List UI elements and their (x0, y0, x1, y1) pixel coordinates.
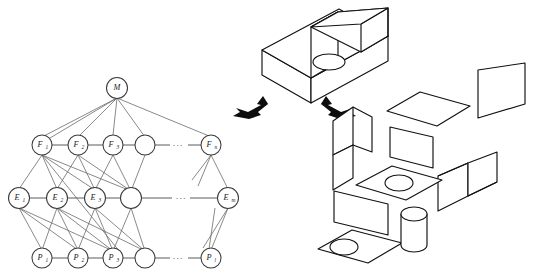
ellipsis-primitive-layer: ··· (173, 253, 184, 263)
face-lower-left-panel (334, 191, 388, 235)
node-fn[interactable]: F n (201, 135, 221, 155)
base-plate-hole-ellipse (385, 175, 413, 191)
node-label-em: E (222, 193, 228, 202)
exploded-face-view (318, 63, 525, 263)
node-label-f2: F (72, 140, 79, 149)
node-f2[interactable]: F 2 (68, 135, 88, 155)
node-label-p2: P (72, 253, 78, 262)
edges-root-to-feature (42, 98, 209, 138)
node-sub-f3: 3 (116, 144, 120, 150)
ellipsis-element-layer: ··· (176, 193, 187, 203)
node-sub-p2: 2 (82, 257, 85, 263)
node-p2[interactable]: P 2 (68, 248, 88, 268)
node-sub-e3: 3 (98, 197, 102, 203)
node-f3[interactable]: F 3 (103, 135, 123, 155)
node-label-m: M (113, 83, 122, 92)
node-sub-p1: 1 (46, 257, 49, 263)
node-root-m[interactable]: M (107, 78, 128, 99)
node-sub-p3: 3 (116, 257, 120, 263)
node-sub-e2: 2 (61, 197, 64, 203)
face-right-bent-front (438, 163, 468, 211)
face-top-deck (387, 92, 470, 126)
edges-element-to-primitive (19, 208, 228, 251)
face-front-panel (390, 127, 433, 168)
node-circle-p4[interactable] (135, 248, 155, 268)
node-e4-unlabeled[interactable] (121, 188, 142, 209)
face-left-bent-side (353, 107, 372, 152)
node-em[interactable]: E m (218, 188, 239, 209)
block-hole-ellipse (313, 54, 345, 70)
bottom-plate-hole-ellipse (330, 239, 358, 255)
ellipsis-feature-layer: ··· (173, 140, 184, 150)
isometric-l-block (262, 8, 388, 103)
cylinder-pin-top (401, 207, 427, 221)
node-label-fn: F (205, 140, 212, 149)
node-f1[interactable]: F 1 (32, 135, 52, 155)
node-label-f3: F (107, 140, 114, 149)
node-f4-unlabeled[interactable] (135, 135, 155, 155)
node-sub-fn: n (215, 144, 218, 150)
node-e1[interactable]: E 1 (9, 188, 30, 209)
node-p4-unlabeled[interactable] (135, 248, 155, 268)
node-label-e3: E (89, 193, 95, 202)
node-label-p1: P (36, 253, 42, 262)
face-top-right-plate (478, 63, 525, 118)
node-pl[interactable]: P l (201, 248, 221, 268)
node-sub-e1: 1 (23, 197, 26, 203)
node-label-p3: P (107, 253, 113, 262)
node-p1[interactable]: P 1 (32, 248, 52, 268)
node-label-e2: E (51, 193, 57, 202)
node-label-pl: P (205, 253, 211, 262)
node-sub-em: m (232, 197, 236, 203)
hierarchy-graph: ··· ··· ··· M F 1 F 2 F 3 (9, 78, 239, 269)
node-label-e1: E (13, 193, 19, 202)
explode-arrow-left (233, 96, 270, 119)
node-sub-f2: 2 (82, 144, 85, 150)
diagram-svg: ··· ··· ··· M F 1 F 2 F 3 (0, 0, 533, 275)
node-p3[interactable]: P 3 (103, 248, 123, 268)
node-circle-f4[interactable] (135, 135, 155, 155)
node-e2[interactable]: E 2 (47, 188, 68, 209)
figure-canvas: ··· ··· ··· M F 1 F 2 F 3 (0, 0, 533, 275)
node-circle-e4[interactable] (121, 188, 142, 209)
node-e3[interactable]: E 3 (85, 188, 106, 209)
node-label-f1: F (36, 140, 43, 149)
node-sub-f1: 1 (46, 144, 49, 150)
